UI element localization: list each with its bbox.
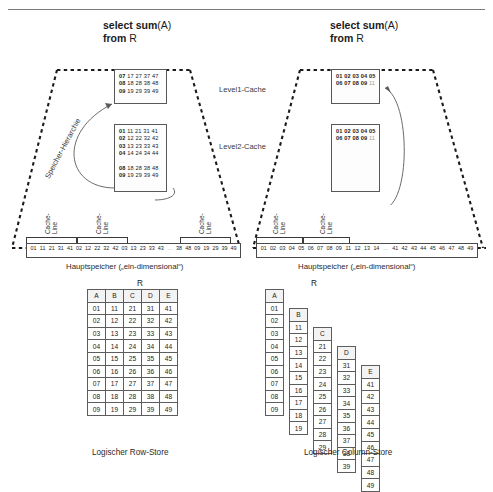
row-store-caption: Logischer Row-Store — [92, 448, 168, 457]
row-store-cell: 43 — [160, 327, 178, 340]
row-store-cell: 09 — [88, 403, 106, 416]
column-store-cell: 37 — [338, 435, 356, 448]
row-store-cell: 29 — [124, 403, 142, 416]
row-store-cell: 23 — [124, 327, 142, 340]
row-store-column-header: E — [160, 290, 178, 303]
list-item: 42 — [362, 391, 380, 404]
left-query-select: select sum — [103, 19, 157, 31]
level1-cache-label: Level1-Cache — [219, 85, 266, 94]
row-store-column-header: D — [142, 290, 160, 303]
right-memory-cell: 01 — [259, 245, 268, 251]
list-item: 15 — [290, 371, 308, 384]
list-item: 02 — [266, 315, 284, 328]
list-item: 04 — [266, 340, 284, 353]
list-item: 43 — [362, 403, 380, 416]
left-l2-row-values: 13 23 33 43 — [126, 143, 159, 149]
column-store-cell: 02 — [266, 315, 284, 328]
right-memory-cell: 03 — [278, 245, 287, 251]
column-store-cell: 39 — [338, 460, 356, 473]
list-item: 16 — [290, 384, 308, 397]
page-top-rule — [8, 9, 485, 10]
right-memory-cell: 08 — [325, 245, 334, 251]
right-memory-cell: 14 — [372, 245, 381, 251]
list-item: 23 — [314, 365, 332, 378]
left-memory-cell: 03 — [120, 245, 129, 251]
column-store-cell: 36 — [338, 422, 356, 435]
list-item: 09 — [266, 403, 284, 416]
table-row: 0717273747 — [88, 378, 178, 391]
right-cacheline-label-2: Cache-Line — [319, 213, 334, 234]
table-row: 0616263646 — [88, 365, 178, 378]
table-row: 0313233343 — [88, 327, 178, 340]
column-store-cell: 26 — [314, 403, 332, 416]
left-l2-row-values: 14 24 34 44 — [126, 150, 159, 156]
row-store-cell: 15 — [106, 352, 124, 365]
right-memory-cell: 45 — [428, 245, 437, 251]
left-memory-cell: 41 — [65, 245, 74, 251]
right-memory-cell: 48 — [456, 245, 465, 251]
list-item: 48 — [362, 466, 380, 479]
list-item: 34 — [338, 397, 356, 410]
row-store-cell: 03 — [88, 327, 106, 340]
list-item: 03 — [266, 327, 284, 340]
column-store-cell: 08 — [266, 390, 284, 403]
column-store-column-header: C — [314, 328, 332, 341]
list-item: 21 — [314, 340, 332, 353]
column-store-relation-name: R — [311, 279, 317, 288]
left-memory-cell: 01 — [29, 245, 38, 251]
left-query-rel: R — [126, 32, 137, 44]
right-memory-cell: 11 — [344, 245, 353, 251]
list-item: 06 — [266, 365, 284, 378]
left-memory-cell: 31 — [56, 245, 65, 251]
row-store-cell: 32 — [142, 315, 160, 328]
list-item: 08 — [266, 390, 284, 403]
right-l1-row: 06 07 08 09 11 — [336, 80, 375, 87]
left-l2-row-values: 18 28 38 48 — [126, 165, 159, 171]
left-l1-cache-box: 07 17 27 37 4708 18 28 38 4809 19 29 39 … — [114, 69, 167, 104]
right-memory-cell: 12 — [353, 245, 362, 251]
right-l2-row: 06 07 08 09 11 — [336, 135, 375, 142]
column-store-column: A010203040506070809 — [265, 289, 284, 416]
right-memory-cell: 44 — [419, 245, 428, 251]
list-item: 26 — [314, 403, 332, 416]
left-l2-row-values: 12 22 32 42 — [126, 135, 159, 141]
row-store-cell: 16 — [106, 365, 124, 378]
table-row: 0212223242 — [88, 315, 178, 328]
row-store-cell: 05 — [88, 352, 106, 365]
row-store-cell: 18 — [106, 390, 124, 403]
left-memory-cell: 12 — [84, 245, 93, 251]
level2-cache-label: Level2-Cache — [219, 142, 266, 151]
row-store-cell: 48 — [160, 390, 178, 403]
left-memory-cell: 48 — [184, 245, 193, 251]
list-item: 17 — [290, 397, 308, 410]
right-cacheline-label-1: Cache-Line — [272, 213, 287, 234]
left-l2-row: … — [119, 158, 162, 165]
right-memory-cell: 49 — [466, 245, 475, 251]
left-memory-cell: 09 — [193, 245, 202, 251]
left-l1-row-values: 18 28 38 48 — [126, 80, 159, 86]
column-store-column: C212223242526272829 — [313, 327, 332, 454]
row-store-header-row: ABCDE — [88, 290, 178, 303]
list-item: 12 — [290, 334, 308, 347]
list-item: 11 — [290, 321, 308, 334]
table-row: 0515253545 — [88, 352, 178, 365]
right-query-text: select sum(A) from R — [330, 19, 398, 45]
list-item: 07 — [266, 378, 284, 391]
left-memory-cell: 13 — [129, 245, 138, 251]
right-query-select: select sum — [330, 19, 384, 31]
column-store-cell: 33 — [338, 384, 356, 397]
table-row: 0111213141 — [88, 302, 178, 315]
column-store-cell: 05 — [266, 352, 284, 365]
column-store-cell: 42 — [362, 391, 380, 404]
row-store-cell: 22 — [124, 315, 142, 328]
right-l1-row-values: 01 02 03 04 05 — [336, 73, 375, 79]
list-item: 19 — [290, 422, 308, 435]
column-store-cell: 18 — [290, 409, 308, 422]
column-store-cell: 03 — [266, 327, 284, 340]
right-l2-row-values: 01 02 03 04 05 — [336, 128, 375, 134]
row-store-cell: 38 — [142, 390, 160, 403]
left-memory-cell: 42 — [111, 245, 120, 251]
left-memory-cell: 02 — [74, 245, 83, 251]
list-item: 01 — [266, 302, 284, 315]
column-store-column-header: A — [266, 290, 284, 303]
